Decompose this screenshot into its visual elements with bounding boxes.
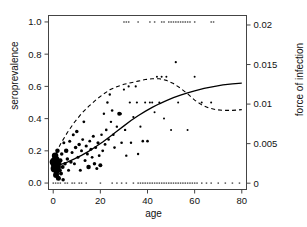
svg-text:0: 0 [51,195,56,206]
svg-text:0: 0 [254,178,259,189]
y-axis-left-ticks: 0.00.20.40.60.81.0 [28,16,48,188]
x-axis-ticks: 020406080 [51,190,248,206]
svg-text:0.0: 0.0 [28,177,41,188]
x-axis-title: age [0,208,307,219]
svg-text:40: 40 [142,195,153,206]
plot-frame [49,16,247,190]
fitted-seroprevalence-line [53,83,242,166]
svg-text:0.015: 0.015 [254,59,278,70]
force-of-infection-line [53,79,242,160]
svg-text:0.005: 0.005 [254,138,278,149]
chart-figure: 0.00.20.40.60.81.0 00.0050.010.0150.02 0… [0,0,307,227]
svg-text:60: 60 [189,195,200,206]
y-axis-right-title: force of infection [294,40,305,120]
svg-text:0.01: 0.01 [254,98,273,109]
svg-text:0.6: 0.6 [28,81,41,92]
svg-text:0.8: 0.8 [28,49,41,60]
svg-text:0.2: 0.2 [28,145,41,156]
rug-bottom-points [53,182,241,184]
scatter-plot-canvas: 0.00.20.40.60.81.0 00.0050.010.0150.02 0… [0,0,307,227]
svg-text:0.02: 0.02 [254,19,273,30]
rug-top-points [123,21,214,23]
svg-text:1.0: 1.0 [28,16,41,27]
svg-text:0.4: 0.4 [28,113,41,124]
y-axis-left-title: seroprevalence [9,36,20,116]
svg-text:20: 20 [95,195,106,206]
y-axis-right-ticks: 00.0050.010.0150.02 [247,19,278,188]
svg-text:80: 80 [236,195,247,206]
